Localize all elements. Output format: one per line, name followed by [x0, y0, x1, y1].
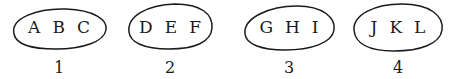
group-2: DEF 2: [125, 0, 215, 79]
group-label: 1: [8, 58, 110, 77]
letter: L: [414, 17, 425, 37]
letter: E: [165, 17, 177, 37]
letter-set: GHI: [241, 17, 337, 37]
letter: A: [28, 17, 40, 37]
group-label: 3: [241, 58, 337, 77]
letter: G: [259, 17, 273, 37]
letter: J: [371, 17, 378, 37]
group-label: 4: [350, 58, 446, 77]
letter: H: [285, 17, 300, 37]
letter-set: DEF: [125, 17, 215, 37]
letter: F: [189, 17, 201, 37]
letter: K: [389, 17, 402, 37]
group-3: GHI 3: [241, 0, 337, 79]
letter: D: [139, 17, 153, 37]
group-1: ABC 1: [8, 0, 110, 79]
letter-set: ABC: [8, 17, 110, 37]
group-label: 2: [125, 58, 215, 77]
letter: I: [312, 17, 319, 37]
letter: C: [77, 17, 90, 37]
group-4: JKL 4: [350, 0, 446, 79]
letter: B: [52, 17, 65, 37]
letter-set: JKL: [350, 17, 446, 37]
